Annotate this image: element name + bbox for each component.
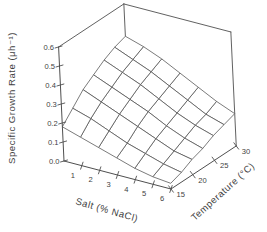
z-tick-label: 0.5	[44, 62, 55, 71]
frame-back-left-vertical-edge	[124, 4, 126, 36]
z-tick-label: 0.1	[48, 138, 59, 147]
temperature-tick-label: 30	[242, 147, 250, 156]
temperature-tick-label: 15	[176, 190, 184, 199]
z-tick-label: 0.2	[47, 119, 58, 128]
salt-tick-label: 2	[89, 175, 93, 184]
z-tick-label: 0.3	[46, 100, 57, 109]
surface-plot-canvas: 0.00.10.20.30.40.50.612345615202530 Spec…	[0, 0, 267, 232]
z-tick-label: 0.0	[49, 157, 60, 166]
frame-top-back-edge	[124, 4, 231, 32]
z-tick-label: 0.6	[44, 43, 55, 52]
salt-tick-label: 6	[160, 194, 164, 203]
temperature-tick	[190, 171, 195, 177]
temperature-tick-label: 20	[198, 176, 206, 185]
surface-mesh	[62, 36, 234, 183]
temperature-tick-label: 25	[220, 161, 228, 170]
frame-right-vertical-edge	[231, 32, 236, 146]
x-axis-label: Salt (% NaCl)	[74, 195, 139, 223]
z-axis-label: Specific Growth Rate (μh⁻¹)	[6, 32, 17, 164]
salt-tick-label: 5	[142, 189, 146, 198]
z-tick-label: 0.4	[45, 81, 56, 90]
temperature-tick	[212, 157, 217, 163]
growth-rate-3d-surface-figure: 0.00.10.20.30.40.50.612345615202530 Spec…	[0, 0, 267, 232]
salt-tick-label: 4	[124, 185, 128, 194]
salt-tick-label: 3	[106, 180, 110, 189]
frame-top-left-edge	[59, 4, 124, 47]
salt-tick-label: 1	[71, 171, 75, 180]
